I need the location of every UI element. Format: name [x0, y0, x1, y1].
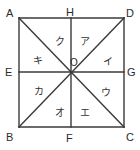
geometry-figure: A H D E G B F C O ア イ ウ エ オ カ キ ク — [0, 0, 140, 150]
region-label-e: エ — [80, 108, 90, 118]
vertex-label-c: C — [126, 132, 134, 143]
region-label-ku: ク — [55, 37, 65, 47]
vertex-label-b: B — [6, 132, 13, 143]
region-label-o: オ — [55, 108, 65, 118]
vertex-label-a: A — [6, 8, 13, 19]
region-label-i: イ — [103, 57, 113, 67]
vertex-label-e: E — [5, 67, 12, 78]
region-label-ki: キ — [33, 56, 43, 66]
vertex-label-d: D — [126, 8, 134, 19]
region-label-u: ウ — [101, 88, 111, 98]
center-label-o: O — [70, 58, 78, 68]
vertex-label-f: F — [66, 133, 73, 144]
region-label-a: ア — [80, 37, 90, 47]
region-label-ka: カ — [34, 87, 44, 97]
figure-canvas — [0, 0, 140, 150]
vertex-label-h: H — [66, 7, 74, 18]
vertex-label-g: G — [127, 67, 136, 78]
